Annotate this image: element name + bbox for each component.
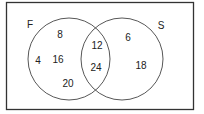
set-f-label: F	[27, 20, 33, 30]
venn-diagram	[0, 0, 204, 114]
set-s-label: S	[158, 21, 165, 31]
f-only-value: 4	[35, 56, 41, 66]
s-only-value: 18	[135, 61, 146, 71]
f-only-value: 16	[52, 55, 63, 65]
intersection-value: 24	[90, 63, 101, 73]
s-only-value: 6	[125, 33, 131, 43]
f-only-value: 20	[62, 79, 73, 89]
f-only-value: 8	[57, 30, 63, 40]
intersection-value: 12	[91, 41, 102, 51]
